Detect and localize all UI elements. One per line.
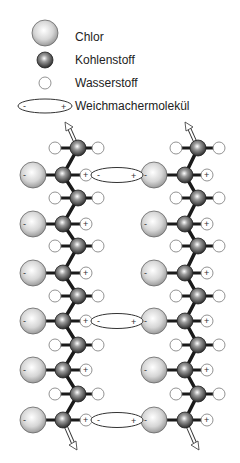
chlorine-atoms: [141, 162, 167, 433]
chlorine-atoms: [20, 162, 46, 433]
carbon-atom-icon: [37, 52, 53, 68]
pvc-chain-right: -+ -+ -+ -+ -+ -+: [141, 122, 225, 450]
svg-text:-: -: [144, 219, 147, 229]
hydrogen-atoms: [170, 142, 225, 426]
svg-text:-: -: [144, 365, 147, 375]
legend-label-hydrogen: Wasserstoff: [75, 76, 138, 90]
svg-text:+: +: [83, 268, 88, 278]
hydrogen-atoms: [49, 142, 104, 426]
svg-text:+: +: [204, 219, 209, 229]
legend-label-plasticizer: Weichmachermolekül: [75, 99, 190, 113]
svg-text:+: +: [83, 415, 88, 425]
svg-text:+: +: [204, 170, 209, 180]
svg-text:+: +: [204, 365, 209, 375]
plasticizer-molecule: - +: [91, 413, 143, 428]
svg-text:+: +: [83, 170, 88, 180]
chlorine-atom-icon: [32, 20, 58, 46]
svg-text:-: -: [144, 415, 147, 425]
svg-text:-: -: [97, 316, 100, 326]
legend-item-hydrogen: Wasserstoff: [39, 76, 138, 90]
svg-text:-: -: [97, 170, 100, 180]
svg-text:-: -: [23, 415, 26, 425]
svg-text:-: -: [144, 316, 147, 326]
svg-text:-: -: [23, 219, 26, 229]
svg-text:-: -: [23, 365, 26, 375]
plasticizer-molecule: - +: [91, 314, 143, 329]
svg-text:-: -: [97, 415, 100, 425]
legend-item-plasticizer: - + Weichmachermolekül: [18, 99, 190, 113]
svg-text:-: -: [144, 170, 147, 180]
plus-sign: +: [61, 102, 66, 112]
svg-text:+: +: [131, 171, 136, 181]
hydrogen-atom-icon: [39, 77, 51, 89]
legend: Chlor Kohlenstoff Wasserstoff - + Weichm…: [18, 20, 190, 113]
pvc-chain-left: -+ -+ -+ -+ -+ -+: [20, 122, 104, 450]
svg-text:+: +: [83, 316, 88, 326]
svg-text:+: +: [204, 268, 209, 278]
svg-text:+: +: [204, 316, 209, 326]
svg-text:-: -: [23, 268, 26, 278]
svg-text:+: +: [83, 365, 88, 375]
svg-text:-: -: [23, 316, 26, 326]
legend-item-carbon: Kohlenstoff: [37, 52, 135, 68]
legend-label-carbon: Kohlenstoff: [75, 53, 135, 67]
svg-text:-: -: [23, 170, 26, 180]
legend-label-chlorine: Chlor: [75, 30, 104, 44]
svg-text:+: +: [131, 416, 136, 426]
pvc-plasticizer-diagram: Chlor Kohlenstoff Wasserstoff - + Weichm…: [0, 0, 240, 463]
svg-text:+: +: [83, 219, 88, 229]
svg-text:-: -: [144, 268, 147, 278]
minus-sign: -: [23, 101, 26, 111]
svg-text:+: +: [131, 317, 136, 327]
svg-text:+: +: [204, 415, 209, 425]
plasticizer-molecule: - +: [91, 168, 143, 183]
legend-item-chlorine: Chlor: [32, 20, 104, 46]
